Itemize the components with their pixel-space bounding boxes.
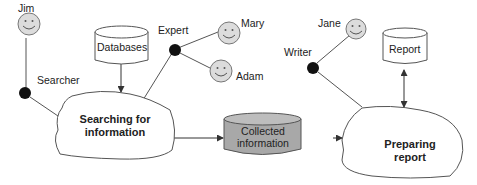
- searcher-process-line: [30, 97, 58, 116]
- actor-mary-label: Mary: [241, 17, 264, 29]
- searching-line2: information: [70, 126, 160, 139]
- role-searcher-label: Searcher: [37, 74, 80, 86]
- smiley-jim-icon: [18, 13, 40, 35]
- searching-process-label: Searching for information: [70, 113, 160, 139]
- preparing-line2: report: [370, 151, 450, 164]
- searching-line1: Searching for: [70, 113, 160, 126]
- databases-label: Databases: [97, 41, 147, 53]
- expert-adam-line: [178, 52, 210, 68]
- jane-writer-line: [317, 35, 350, 63]
- actor-jane-label: Jane: [318, 17, 341, 29]
- report-label: Report: [389, 43, 421, 55]
- searcher-node-icon: [19, 87, 31, 99]
- preparing-line1: Preparing: [370, 138, 450, 151]
- smiley-mary-icon: [218, 22, 240, 44]
- collected-information-label: Collected information: [228, 125, 298, 149]
- smiley-jane-icon: [346, 19, 366, 39]
- writer-node-icon: [307, 62, 319, 74]
- role-writer-label: Writer: [284, 46, 312, 58]
- actor-adam-label: Adam: [236, 70, 263, 82]
- role-expert-label: Expert: [158, 24, 188, 36]
- writer-process-line: [318, 72, 362, 107]
- smiley-adam-icon: [210, 60, 232, 82]
- collected-line2: information: [228, 137, 298, 149]
- collected-line1: Collected: [228, 125, 298, 137]
- diagram-canvas: Jim Mary Adam Jane Searcher Expert Write…: [0, 0, 477, 185]
- preparing-process-label: Preparing report: [370, 138, 450, 164]
- expert-node-icon: [169, 44, 181, 56]
- actor-jim-label: Jim: [18, 2, 34, 14]
